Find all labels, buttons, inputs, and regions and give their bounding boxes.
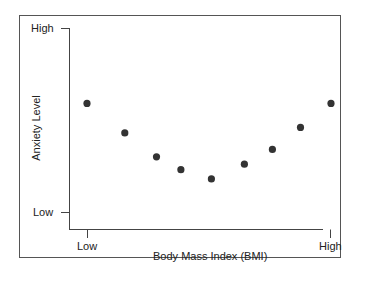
data-point — [83, 100, 90, 107]
y-tick-label-low: Low — [33, 206, 53, 218]
data-point — [327, 100, 334, 107]
x-tick-label-high: High — [319, 240, 342, 252]
data-point — [121, 129, 128, 136]
data-point — [297, 124, 304, 131]
x-axis-label: Body Mass Index (BMI) — [153, 250, 267, 262]
data-point — [208, 175, 215, 182]
data-point — [241, 161, 248, 168]
data-points — [83, 100, 334, 183]
scatter-plot — [0, 0, 373, 286]
data-point — [269, 146, 276, 153]
data-point — [177, 166, 184, 173]
y-axis-label: Anxiety Level — [30, 95, 42, 160]
x-tick-label-low: Low — [77, 240, 97, 252]
y-tick-label-high: High — [31, 22, 54, 34]
data-point — [153, 153, 160, 160]
